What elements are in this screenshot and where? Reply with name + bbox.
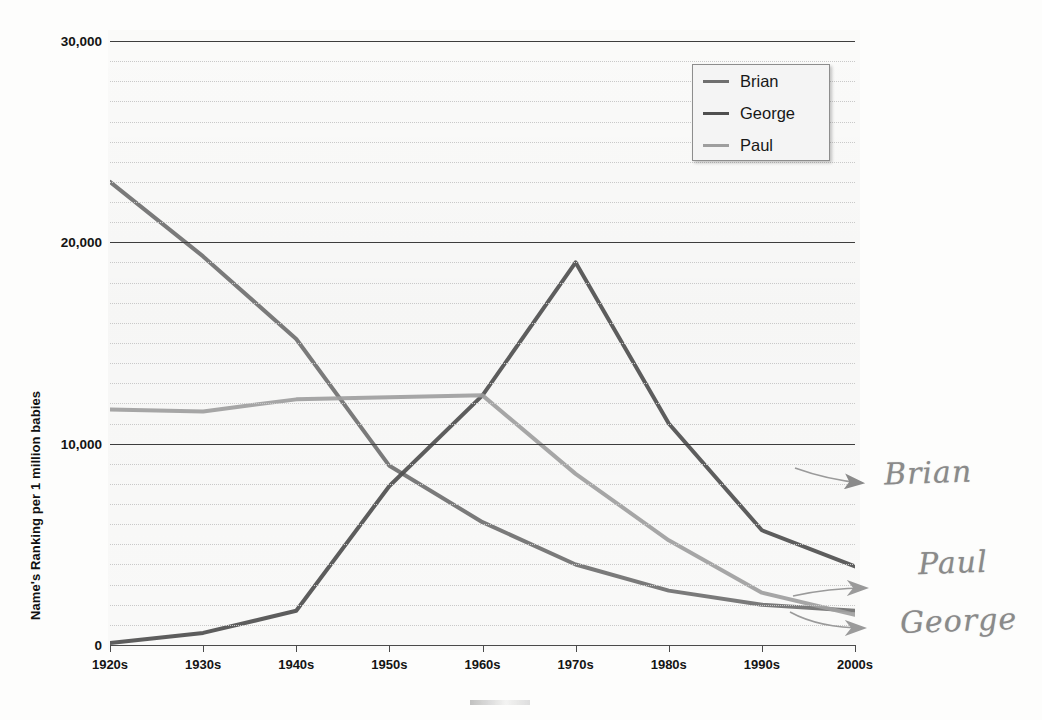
cropped-x-axis-title-smudge [470,700,530,705]
y-tick-label-30000: 30,000 [2,34,102,49]
legend-swatch-paul [703,144,729,147]
minor-gridline [110,524,855,525]
x-tick-label-1940s: 1940s [278,657,314,672]
minor-gridline [110,323,855,324]
x-tick-label-1930s: 1930s [185,657,221,672]
minor-gridline [110,585,855,586]
x-axis-tick [762,645,763,652]
legend-item-brian[interactable]: Brian [693,65,829,97]
y-tick-label-0: 0 [2,638,102,653]
major-gridline [110,444,855,445]
minor-gridline [110,363,855,364]
x-tick-label-2000s: 2000s [837,657,873,672]
x-tick-label-1960s: 1960s [464,657,500,672]
x-tick-label-1950s: 1950s [371,657,407,672]
major-gridline [110,41,855,42]
x-axis-tick [855,645,856,652]
minor-gridline [110,424,855,425]
x-axis-tick [203,645,204,652]
minor-gridline [110,202,855,203]
x-axis-tick [576,645,577,652]
x-tick-label-1980s: 1980s [651,657,687,672]
legend-item-paul[interactable]: Paul [693,129,829,161]
legend-label-george: George [740,105,795,122]
major-gridline [110,242,855,243]
minor-gridline [110,343,855,344]
x-tick-label-1990s: 1990s [744,657,780,672]
legend-swatch-george [703,112,729,115]
minor-gridline [110,303,855,304]
chart-page: Name's Ranking per 1 million babies 30,0… [0,0,1042,720]
minor-gridline [110,222,855,223]
legend-label-brian: Brian [740,73,779,90]
y-axis-title-holder: Name's Ranking per 1 million babies [34,470,44,480]
handwritten-label-paul: Paul [917,544,988,581]
minor-gridline [110,383,855,384]
minor-gridline [110,544,855,545]
x-axis-tick [669,645,670,652]
minor-gridline [110,605,855,606]
minor-gridline [110,283,855,284]
x-axis-tick [389,645,390,652]
y-tick-label-10000: 10,000 [2,436,102,451]
minor-gridline [110,564,855,565]
series-line-george [110,262,855,643]
minor-gridline [110,182,855,183]
minor-gridline [110,61,855,62]
y-tick-label-20000: 20,000 [2,235,102,250]
legend-swatch-brian [703,80,729,83]
minor-gridline [110,504,855,505]
legend-label-paul: Paul [740,137,773,154]
y-axis-title: Name's Ranking per 1 million babies [28,300,43,620]
minor-gridline [110,625,855,626]
handwritten-label-george: George [899,601,1017,640]
minor-gridline [110,464,855,465]
x-axis-tick [483,645,484,652]
x-tick-label-1920s: 1920s [92,657,128,672]
minor-gridline [110,262,855,263]
handwritten-label-brian: Brian [883,453,972,491]
minor-gridline [110,484,855,485]
legend-item-george[interactable]: George [693,97,829,129]
minor-gridline [110,403,855,404]
x-tick-label-1970s: 1970s [558,657,594,672]
minor-gridline [110,162,855,163]
x-axis-tick [110,645,111,652]
x-axis-tick [296,645,297,652]
legend[interactable]: Brian George Paul [692,64,830,161]
series-line-paul [110,395,855,614]
